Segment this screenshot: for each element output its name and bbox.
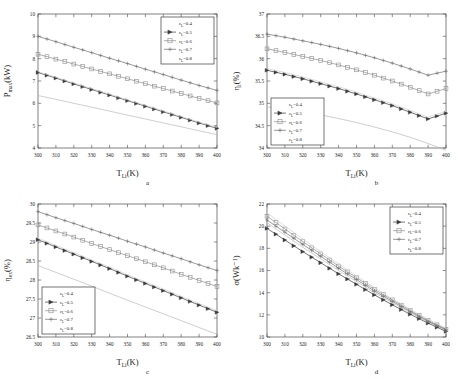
x-tick-label: 380 bbox=[177, 152, 185, 158]
y-tick-label: 6 bbox=[32, 100, 35, 106]
y-axis-label: ηt(%) bbox=[231, 71, 242, 90]
x-tick-label: 390 bbox=[195, 341, 203, 347]
x-tick-label: 360 bbox=[142, 152, 150, 158]
figure-container: 3003103203303403503603703803904004567891… bbox=[0, 0, 458, 379]
y-tick-label: 34 bbox=[259, 145, 265, 151]
x-tick-label: 400 bbox=[213, 152, 221, 158]
y-tick-label: 12 bbox=[259, 312, 265, 318]
y-tick-label: 27 bbox=[30, 315, 36, 321]
y-tick-label: 10 bbox=[30, 11, 36, 17]
x-tick-label: 400 bbox=[213, 341, 221, 347]
x-tick-label: 310 bbox=[281, 341, 289, 347]
y-tick-label: 27.5 bbox=[26, 296, 35, 302]
y-tick-label: 35.5 bbox=[255, 78, 264, 84]
x-tick-label: 320 bbox=[299, 152, 307, 158]
y-tick-label: 36 bbox=[259, 56, 265, 62]
x-tick-label: 350 bbox=[124, 341, 132, 347]
x-tick-label: 330 bbox=[88, 341, 96, 347]
x-tick-label: 370 bbox=[388, 152, 396, 158]
x-tick-label: 380 bbox=[406, 152, 414, 158]
x-tick-label: 340 bbox=[335, 152, 343, 158]
x-tick-label: 360 bbox=[142, 341, 150, 347]
x-tick-label: 330 bbox=[88, 152, 96, 158]
x-axis-label: TLi(K) bbox=[117, 357, 139, 368]
x-tick-label: 360 bbox=[371, 152, 379, 158]
y-tick-label: 36.5 bbox=[255, 33, 264, 39]
y-tick-label: 7 bbox=[32, 78, 35, 84]
x-tick-label: 340 bbox=[106, 152, 114, 158]
y-tick-label: 26.5 bbox=[26, 334, 35, 340]
x-axis-label: TLi(K) bbox=[117, 168, 139, 179]
y-tick-label: 20 bbox=[259, 223, 265, 229]
y-tick-label: 28.5 bbox=[26, 258, 35, 264]
subplot-c: 30031032033034035036037038039040026.5272… bbox=[0, 190, 229, 379]
y-axis-label: ηex(%) bbox=[2, 259, 13, 282]
y-tick-label: 35 bbox=[259, 100, 265, 106]
x-tick-label: 380 bbox=[177, 341, 185, 347]
plot-a: 3003103203303403503603703803904004567891… bbox=[0, 0, 229, 190]
y-tick-label: 8 bbox=[32, 56, 35, 62]
x-tick-label: 350 bbox=[353, 152, 361, 158]
panel-letter-a: a bbox=[146, 179, 150, 187]
plot-d: 3003103203303403503603703803904001012141… bbox=[229, 190, 458, 379]
panel-letter-b: b bbox=[375, 179, 379, 187]
x-tick-label: 400 bbox=[442, 341, 450, 347]
x-tick-label: 310 bbox=[281, 152, 289, 158]
x-tick-label: 300 bbox=[34, 152, 42, 158]
plot-c: 30031032033034035036037038039040026.5272… bbox=[0, 190, 229, 379]
y-tick-label: 37 bbox=[259, 11, 265, 17]
y-tick-label: 28 bbox=[30, 277, 36, 283]
x-tick-label: 400 bbox=[442, 152, 450, 158]
x-tick-label: 310 bbox=[52, 341, 60, 347]
y-tick-label: 14 bbox=[259, 290, 265, 296]
y-tick-label: 9 bbox=[32, 33, 35, 39]
x-tick-label: 320 bbox=[299, 341, 307, 347]
x-tick-label: 320 bbox=[70, 152, 78, 158]
legend[interactable]: εL=0.4εL=0.5εL=0.6εL=0.7εL=0.8 bbox=[390, 207, 443, 254]
subplot-d: 3003103203303403503603703803904001012141… bbox=[229, 190, 458, 379]
x-tick-label: 340 bbox=[335, 341, 343, 347]
y-tick-label: 30 bbox=[30, 201, 36, 207]
y-tick-label: 29 bbox=[30, 239, 36, 245]
x-tick-label: 300 bbox=[34, 341, 42, 347]
y-tick-label: 29.5 bbox=[26, 220, 35, 226]
x-tick-label: 360 bbox=[371, 341, 379, 347]
y-tick-label: 16 bbox=[259, 267, 265, 273]
panel-letter-d: d bbox=[375, 368, 379, 376]
x-axis-label: TLi(K) bbox=[346, 357, 368, 368]
y-axis-label: Pmax(kW) bbox=[2, 65, 13, 97]
x-tick-label: 300 bbox=[263, 152, 271, 158]
subplot-b: 3003103203303403503603703803904003434.53… bbox=[229, 0, 458, 190]
x-tick-label: 320 bbox=[70, 341, 78, 347]
y-tick-label: 5 bbox=[32, 123, 35, 129]
panel-letter-c: c bbox=[146, 368, 149, 376]
x-tick-label: 370 bbox=[388, 341, 396, 347]
legend[interactable]: εL=0.4εL=0.5εL=0.6εL=0.7εL=0.8 bbox=[161, 17, 214, 64]
plot-b: 3003103203303403503603703803904003434.53… bbox=[229, 0, 458, 190]
x-tick-label: 370 bbox=[159, 152, 167, 158]
x-tick-label: 350 bbox=[124, 152, 132, 158]
x-tick-label: 380 bbox=[406, 341, 414, 347]
x-tick-label: 300 bbox=[263, 341, 271, 347]
y-tick-label: 4 bbox=[32, 145, 35, 151]
legend[interactable]: εL=0.4εL=0.5εL=0.6εL=0.7εL=0.8 bbox=[271, 98, 324, 145]
x-tick-label: 330 bbox=[317, 152, 325, 158]
legend[interactable]: εL=0.4εL=0.5εL=0.6εL=0.7εL=0.8 bbox=[42, 287, 95, 334]
x-tick-label: 330 bbox=[317, 341, 325, 347]
x-tick-label: 340 bbox=[106, 341, 114, 347]
x-tick-label: 390 bbox=[424, 341, 432, 347]
y-tick-label: 10 bbox=[259, 334, 265, 340]
y-tick-label: 34.5 bbox=[255, 123, 264, 129]
x-axis-label: TLi(K) bbox=[346, 168, 368, 179]
x-tick-label: 390 bbox=[195, 152, 203, 158]
y-tick-label: 22 bbox=[259, 201, 265, 207]
x-tick-label: 350 bbox=[353, 341, 361, 347]
subplot-a: 3003103203303403503603703803904004567891… bbox=[0, 0, 229, 190]
x-tick-label: 370 bbox=[159, 341, 167, 347]
x-tick-label: 390 bbox=[424, 152, 432, 158]
x-tick-label: 310 bbox=[52, 152, 60, 158]
y-tick-label: 18 bbox=[259, 245, 265, 251]
y-axis-label: σ(Wk⁻¹) bbox=[231, 255, 241, 285]
